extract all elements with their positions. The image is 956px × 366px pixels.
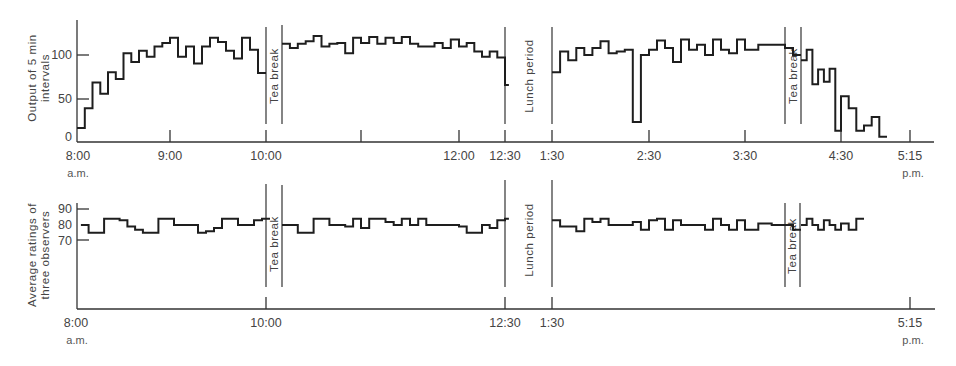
top-xtick-1200: 12:00	[443, 149, 474, 163]
series-segment-4	[801, 50, 887, 137]
bottom-xtick-800: 8:00	[64, 316, 88, 330]
bottom-xtick-1000: 10:00	[250, 316, 281, 330]
svg-text:Tea break: Tea break	[268, 216, 280, 272]
series-segment-1	[81, 219, 270, 233]
top-xtick-900: 9:00	[158, 149, 182, 163]
top-am-label: a.m.	[67, 167, 88, 179]
bottom-ytick-90: 90	[58, 202, 72, 216]
bottom-tea-break-1: Tea break	[266, 184, 282, 287]
top-pm-label: p.m.	[902, 167, 923, 179]
series-segment-1	[77, 38, 266, 128]
bottom-tea-break-2: Tea break	[785, 203, 800, 287]
bottom-ratings-series	[81, 219, 864, 233]
bottom-ytick-70: 70	[58, 234, 72, 248]
top-xtick-430: 4:30	[829, 149, 853, 163]
top-tea-break-1: Tea break	[266, 25, 282, 124]
svg-text:Lunch period: Lunch period	[523, 39, 535, 113]
top-xtick-515: 5:15	[898, 149, 922, 163]
top-ytick-100: 100	[51, 48, 72, 62]
bottom-x-ticks	[266, 297, 910, 309]
bottom-y-axis-title: Average ratings of three observers	[26, 203, 51, 307]
top-y-axis-title: Output of 5 min intervals	[26, 34, 51, 122]
series-segment-2	[282, 36, 509, 85]
top-ytick-0: 0	[65, 130, 72, 144]
svg-text:intervals: intervals	[39, 54, 51, 102]
top-x-ticks	[170, 130, 910, 142]
bottom-xtick-1230: 12:30	[489, 316, 520, 330]
bottom-lunch-period: Lunch period	[505, 180, 552, 287]
top-lunch-period: Lunch period	[505, 27, 552, 124]
top-ytick-50: 50	[58, 92, 72, 106]
top-xtick-1000: 10:00	[250, 149, 281, 163]
series-segment-2	[282, 219, 509, 233]
top-chart: Output of 5 min intervals 0 50 100 8:00 …	[26, 20, 934, 179]
series-segment-4	[801, 219, 864, 230]
svg-text:Output of 5 min: Output of 5 min	[26, 34, 38, 122]
svg-text:Tea break: Tea break	[268, 48, 280, 104]
series-segment-3	[552, 40, 801, 123]
top-xtick-800: 8:00	[66, 149, 90, 163]
top-output-series	[77, 36, 887, 137]
bottom-am-label: a.m.	[66, 334, 87, 346]
svg-text:three observers: three observers	[39, 211, 51, 300]
top-xtick-230: 2:30	[637, 149, 661, 163]
svg-text:Lunch period: Lunch period	[523, 203, 535, 277]
top-xtick-1230: 12:30	[489, 149, 520, 163]
bottom-ytick-80: 80	[58, 218, 72, 232]
bottom-chart: Average ratings of three observers 90 80…	[26, 180, 935, 346]
bottom-pm-label: p.m.	[902, 334, 923, 346]
svg-text:Average ratings of: Average ratings of	[26, 203, 38, 307]
series-segment-3	[552, 219, 801, 231]
top-xtick-330: 3:30	[733, 149, 757, 163]
figure: Output of 5 min intervals 0 50 100 8:00 …	[0, 0, 956, 366]
top-xtick-130: 1:30	[540, 149, 564, 163]
bottom-xtick-515: 5:15	[898, 316, 922, 330]
bottom-xtick-130: 1:30	[540, 316, 564, 330]
top-tea-break-2: Tea break	[785, 27, 801, 124]
svg-text:Tea break: Tea break	[787, 48, 799, 104]
